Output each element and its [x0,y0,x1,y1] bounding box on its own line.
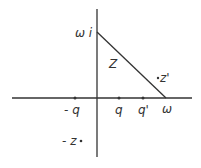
label-neg-z: - z [62,134,77,148]
point-q [118,97,121,100]
label-neg-q: - q [64,103,80,117]
label-q-prime: q' [138,103,149,117]
point-q-prime [142,97,145,100]
label-omega-i: ω i [75,26,93,40]
point-z-prime [157,77,159,79]
complex-plane-diagram: ω i ω Z z' - q q q' - z [0,0,201,168]
label-q: q [115,103,123,117]
label-z-prime: z' [159,71,170,85]
point-neg-z [80,140,83,143]
label-region-z: Z [108,57,118,71]
label-omega: ω [162,102,172,116]
triangle-hypotenuse [97,32,166,98]
point-neg-q [74,97,77,100]
